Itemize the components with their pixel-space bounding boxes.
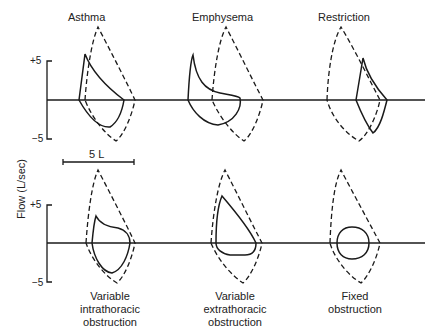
caption-line: obstruction <box>300 303 410 316</box>
caption-line: Fixed <box>300 290 410 303</box>
restriction-normal-loop <box>327 27 380 141</box>
veo-normal-loop <box>211 170 262 283</box>
caption-line: Variable <box>180 290 290 303</box>
diagram-canvas <box>0 0 425 328</box>
flow-volume-loops-figure: Asthma Emphysema Restriction +5 −5 +5 −5… <box>0 0 425 328</box>
caption-line: extrathoracic <box>180 303 290 316</box>
caption-variable-intrathoracic: Variable intrathoracic obstruction <box>55 290 165 328</box>
scale-bar <box>63 159 134 165</box>
caption-variable-extrathoracic: Variable extrathoracic obstruction <box>180 290 290 328</box>
restriction-disease-loop <box>356 58 387 133</box>
caption-line: intrathoracic <box>55 303 165 316</box>
caption-fixed-obstruction: Fixed obstruction <box>300 290 410 316</box>
caption-line: Variable <box>55 290 165 303</box>
caption-line: obstruction <box>180 316 290 328</box>
asthma-normal-loop <box>85 27 135 141</box>
veo-disease-loop <box>216 196 256 255</box>
emphysema-disease-loop <box>188 55 240 125</box>
emphysema-normal-loop <box>212 27 263 141</box>
caption-line: obstruction <box>55 316 165 328</box>
